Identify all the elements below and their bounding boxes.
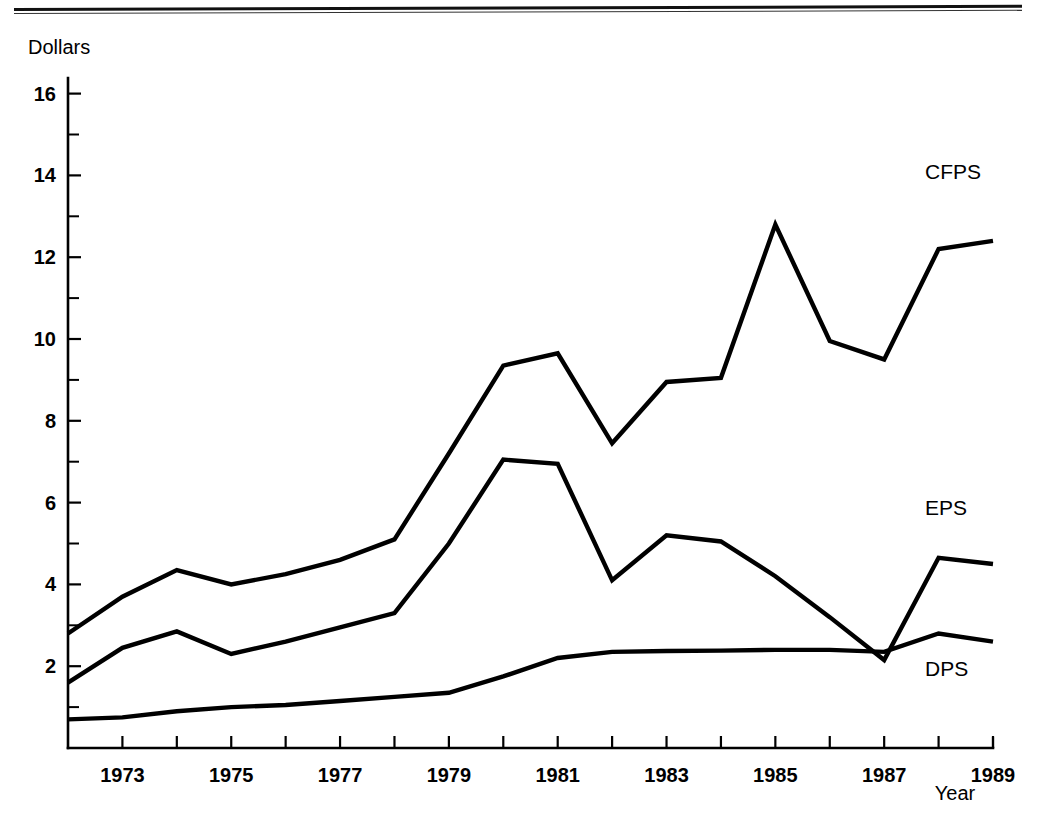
y-tick-label: 10 xyxy=(34,328,56,350)
x-tick-label: 1981 xyxy=(535,764,580,786)
series-labels-group: CFPSEPSDPS xyxy=(925,160,981,680)
x-tick-label: 1975 xyxy=(209,764,254,786)
x-tick-label: 1979 xyxy=(427,764,472,786)
chart-page: 246810121416 197319751977197919811983198… xyxy=(0,0,1038,829)
x-axis-tick-labels: 197319751977197919811983198519871989 xyxy=(100,764,1015,786)
series-line-cfps xyxy=(68,224,993,633)
y-axis-title: Dollars xyxy=(28,36,90,58)
x-tick-label: 1985 xyxy=(753,764,798,786)
y-tick-label: 14 xyxy=(34,164,57,186)
y-tick-label: 6 xyxy=(45,492,56,514)
x-tick-label: 1973 xyxy=(100,764,145,786)
y-tick-label: 16 xyxy=(34,83,56,105)
series-label-cfps: CFPS xyxy=(925,160,981,183)
y-tick-label: 8 xyxy=(45,410,56,432)
y-axis-ticks xyxy=(68,94,81,708)
x-tick-label: 1983 xyxy=(644,764,689,786)
series-label-eps: EPS xyxy=(925,496,967,519)
x-tick-label: 1987 xyxy=(862,764,907,786)
x-tick-label: 1989 xyxy=(971,764,1016,786)
x-axis-title: Year xyxy=(935,782,976,804)
line-chart: 246810121416 197319751977197919811983198… xyxy=(0,0,1038,829)
series-label-dps: DPS xyxy=(925,657,968,680)
y-axis-tick-labels: 246810121416 xyxy=(34,83,57,678)
series-line-dps xyxy=(68,633,993,719)
data-series-group xyxy=(68,224,993,719)
y-tick-label: 2 xyxy=(45,655,56,677)
x-axis-ticks xyxy=(122,736,993,748)
axes xyxy=(68,78,993,748)
y-tick-label: 12 xyxy=(34,246,56,268)
x-tick-label: 1977 xyxy=(318,764,363,786)
y-tick-label: 4 xyxy=(45,573,57,595)
